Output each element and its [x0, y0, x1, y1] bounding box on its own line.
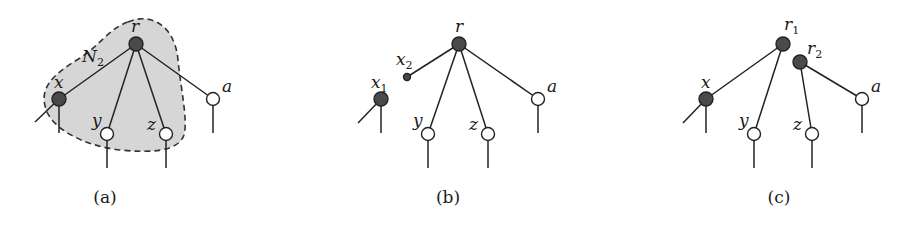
node-x: [699, 92, 713, 106]
label-z: z: [468, 114, 479, 134]
node-r1: [776, 37, 790, 51]
node-r: [129, 37, 143, 51]
panel-b: r x2 x1 y z a (b): [358, 16, 557, 207]
node-x2: [404, 74, 411, 81]
node-r2: [793, 55, 807, 69]
node-x: [52, 92, 66, 106]
node-z: [160, 128, 173, 141]
edge-r2-a: [800, 62, 862, 99]
label-a: a: [222, 76, 232, 96]
edge-r-a: [459, 44, 538, 99]
edge-r1-x: [706, 44, 783, 99]
label-a: a: [871, 76, 881, 96]
node-y: [748, 128, 761, 141]
node-z: [482, 128, 495, 141]
label-r2: r2: [807, 38, 822, 61]
node-z: [806, 128, 819, 141]
label-a: a: [547, 76, 557, 96]
caption-a: (a): [93, 187, 116, 207]
node-y: [422, 128, 435, 141]
edge-r1-y: [754, 44, 783, 134]
node-a: [856, 93, 869, 106]
tree-decomposition-figure: N2 r x y z a (a): [0, 0, 901, 227]
edge-r-y: [428, 44, 459, 134]
node-r: [452, 37, 466, 51]
label-x: x: [54, 72, 64, 92]
label-x2: x2: [396, 49, 413, 72]
label-r1: r1: [784, 14, 799, 37]
panel-a: N2 r x y z a (a): [35, 16, 232, 207]
label-y: y: [412, 110, 423, 130]
label-r: r: [131, 16, 140, 36]
label-x: x: [701, 72, 711, 92]
edge-r-x2: [407, 44, 459, 77]
node-y: [101, 128, 114, 141]
caption-b: (b): [436, 187, 460, 207]
label-y: y: [738, 110, 749, 130]
label-z: z: [146, 114, 157, 134]
panel-c: r1 r2 x y z a (c): [683, 14, 881, 207]
node-a: [532, 93, 545, 106]
label-y: y: [91, 110, 102, 130]
label-x1: x1: [371, 72, 388, 95]
caption-c: (c): [768, 187, 791, 207]
label-z: z: [792, 114, 803, 134]
label-r: r: [455, 16, 464, 36]
node-a: [207, 93, 220, 106]
